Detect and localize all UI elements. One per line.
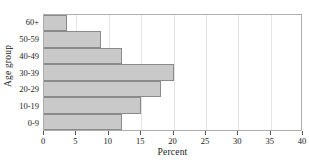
bar-0-9 <box>43 114 122 130</box>
bar-10-19 <box>43 97 141 113</box>
bar-slot <box>44 31 301 47</box>
bar-slot <box>44 48 301 64</box>
x-tick-mark <box>302 131 303 135</box>
x-tick-label: 40 <box>298 136 307 146</box>
x-tick-label: 15 <box>136 136 145 146</box>
x-tick-mark <box>75 131 76 135</box>
x-tick-mark <box>270 131 271 135</box>
x-tick-label: 25 <box>201 136 210 146</box>
bar-series <box>44 15 301 130</box>
x-tick-mark <box>140 131 141 135</box>
x-tick-mark <box>237 131 238 135</box>
bar-slot <box>44 114 301 130</box>
y-tick-label: 20-29 <box>14 81 42 98</box>
bar-60-plus <box>43 15 67 31</box>
x-axis-title: Percent <box>43 147 302 157</box>
x-tick-mark <box>108 131 109 135</box>
bar-40-49 <box>43 48 122 64</box>
x-tick-label: 0 <box>41 136 45 146</box>
y-tick-label: 50-59 <box>14 31 42 48</box>
y-axis-tick-labels: 60+ 50-59 40-49 30-39 20-29 10-19 0-9 <box>14 14 42 131</box>
x-tick-label: 30 <box>233 136 242 146</box>
y-tick-label: 40-49 <box>14 47 42 64</box>
bar-slot <box>44 81 301 97</box>
x-tick-mark <box>205 131 206 135</box>
y-tick-label: 10-19 <box>14 98 42 115</box>
bar-slot <box>44 64 301 80</box>
bar-slot <box>44 15 301 31</box>
y-axis-title-text: Age group <box>3 44 13 86</box>
y-tick-label: 30-39 <box>14 64 42 81</box>
y-tick-label: 60+ <box>14 14 42 31</box>
bar-30-39 <box>43 64 174 80</box>
x-tick-mark <box>43 131 44 135</box>
x-tick-label: 5 <box>73 136 77 146</box>
bar-slot <box>44 97 301 113</box>
x-axis-ticks: 0510152025303540 <box>43 131 302 135</box>
x-tick-label: 10 <box>104 136 113 146</box>
plot-area <box>43 14 302 131</box>
x-tick-mark <box>173 131 174 135</box>
x-tick-label: 35 <box>265 136 274 146</box>
bar-50-59 <box>43 31 101 47</box>
y-tick-label: 0-9 <box>14 114 42 131</box>
bar-chart: Age group 60+ 50-59 40-49 30-39 20-29 10… <box>0 0 309 162</box>
bar-20-29 <box>43 81 161 97</box>
x-tick-label: 20 <box>168 136 177 146</box>
